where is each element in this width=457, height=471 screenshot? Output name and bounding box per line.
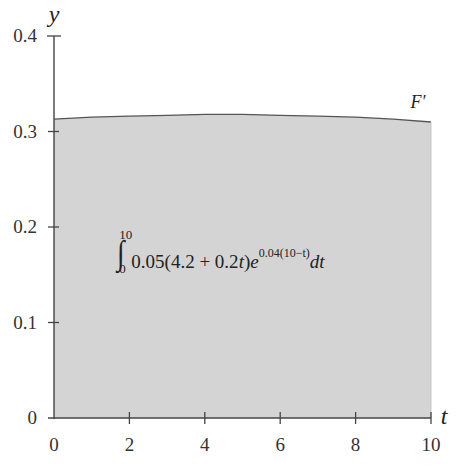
y-axis-label: y [47, 1, 60, 27]
x-tick-label-4: 4 [200, 434, 210, 455]
y-tick-label-0.2: 0.2 [13, 216, 37, 237]
curve-label-f-prime: F′ [410, 92, 427, 112]
x-tick-label-8: 8 [351, 434, 361, 455]
differential: dt [310, 251, 325, 272]
x-axis-label: t [441, 403, 449, 429]
x-tick-label-10: 10 [422, 434, 441, 455]
upper-limit: 10 [119, 228, 132, 241]
integral-annotation: ∫1000.05(4.2 + 0.2t)e0.04(10−t)dt [116, 228, 325, 268]
integrand: 0.05(4.2 + 0.2t)e0.04(10−t)dt [131, 251, 324, 272]
lower-limit: 0 [119, 262, 126, 275]
y-tick-label-0.3: 0.3 [13, 121, 37, 142]
x-tick-label-0: 0 [49, 434, 59, 455]
x-tick-label-6: 6 [275, 434, 285, 455]
x-tick-label-2: 2 [125, 434, 135, 455]
integrand-coefficient: 0.05(4.2 + 0.2 [131, 251, 238, 272]
y-tick-label-0: 0 [28, 407, 38, 428]
y-tick-label-0.1: 0.1 [13, 312, 37, 333]
y-tick-label-0.4: 0.4 [13, 25, 37, 46]
exponent: 0.04(10−t) [259, 246, 310, 260]
exponential-base: e [250, 251, 258, 272]
